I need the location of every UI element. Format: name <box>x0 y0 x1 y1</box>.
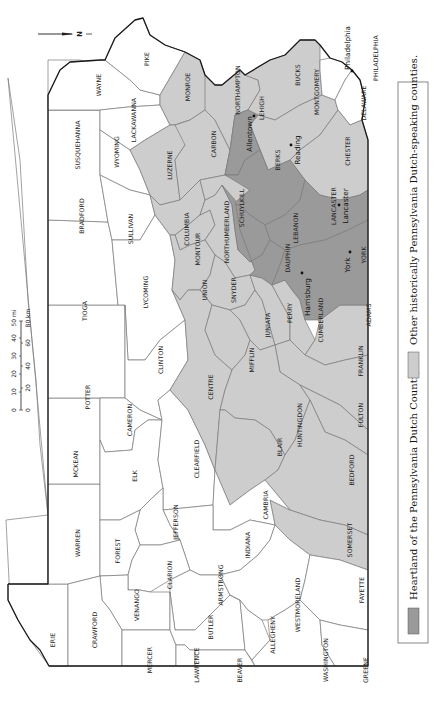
label-clearfield: CLEARFIELD <box>193 440 200 479</box>
city-dot-harrisburg <box>301 272 304 275</box>
county-beaver <box>195 650 255 666</box>
city-reading: Reading <box>293 135 302 164</box>
label-lawrence: LAWRENCE <box>193 647 200 682</box>
label-monroe: MONROE <box>184 73 191 102</box>
scale-mi-10: 10 <box>10 388 17 396</box>
scale-km-40: 40 <box>24 362 31 370</box>
label-columbia: COLUMBIA <box>183 212 190 246</box>
label-jefferson: JEFFERSON <box>172 504 180 541</box>
legend: Heartland of the Pennsylvania Dutch Coun… <box>398 55 428 643</box>
label-montour: MONTOUR <box>194 232 201 266</box>
label-warren: WARREN <box>74 529 81 557</box>
label-mercer: MERCER <box>146 646 153 673</box>
scale-km-20: 20 <box>24 384 31 392</box>
scale-mi-20: 20 <box>10 370 17 378</box>
label-dauphin: DAUPHIN <box>284 243 291 272</box>
label-lehigh: LEHIGH <box>258 96 265 120</box>
city-york: York <box>343 257 352 274</box>
label-butler: BUTLER <box>207 614 214 639</box>
label-potter: POTTER <box>84 384 91 409</box>
label-wayne: WAYNE <box>95 74 102 96</box>
label-susquehanna: SUSQUEHANNA <box>74 120 81 170</box>
label-fulton: FULTON <box>357 402 364 427</box>
legend-label-heartland: Heartland of the Pennsylvania Dutch Coun… <box>408 368 419 600</box>
label-venango: VENANGO <box>133 589 140 621</box>
label-westmoreland: WESTMORELAND <box>294 578 301 633</box>
label-union: UNION <box>201 279 208 300</box>
label-cumberland: CUMBERLAND <box>317 297 324 342</box>
scale-mi-label: 50 mi <box>10 309 17 326</box>
city-harrisburg: Harrisburg <box>303 278 312 316</box>
label-schuylkill: SCHUYLKILL <box>238 188 245 227</box>
label-carbon: CARBON <box>210 130 217 157</box>
city-dot-lancaster <box>338 204 341 207</box>
label-lancaster: LANCASTER <box>330 186 337 224</box>
label-lebanon: LEBANON <box>292 212 299 243</box>
label-adams: ADAMS <box>365 304 372 327</box>
pennsylvania-dutch-map: N <box>0 0 442 701</box>
label-mckean: MCKEAN <box>72 450 79 477</box>
label-clarion: CLARION <box>166 560 173 589</box>
city-philadelphia: Philadelphia <box>343 26 352 70</box>
scale-km-label: 80 km <box>24 308 31 327</box>
label-indiana: INDIANA <box>244 531 251 559</box>
scale-mi-0: 0 <box>10 408 17 412</box>
scale-bar: 0 10 20 30 40 50 mi 0 20 40 60 80 km <box>10 308 31 411</box>
label-centre: CENTRE <box>207 374 214 399</box>
label-sullivan: SULLIVAN <box>127 213 134 244</box>
scale-mi-30: 30 <box>10 352 17 360</box>
label-pike: PIKE <box>143 52 150 66</box>
legend-label-other: Other historically Pennsylvania Dutch-sp… <box>408 55 419 345</box>
label-york: YORK <box>360 246 367 265</box>
label-juniata: JUNIATA <box>264 312 272 338</box>
county-erie-main <box>8 584 68 666</box>
label-montgomery: MONTGOMERY <box>313 69 320 115</box>
label-snyder: SNYDER <box>230 276 237 303</box>
label-berks: BERKS <box>274 150 281 171</box>
label-greene: GREENE <box>362 657 369 683</box>
scale-mi-40: 40 <box>10 334 17 342</box>
label-cameron: CAMERON <box>126 404 133 437</box>
label-huntingdon: HUNTINGDON <box>296 403 303 447</box>
label-bradford: BRADFORD <box>78 198 85 234</box>
legend-swatch-heartland <box>408 608 419 634</box>
scale-km-60: 60 <box>24 339 31 347</box>
label-crawford: CRAWFORD <box>91 612 98 649</box>
label-tioga: TIOGA <box>81 300 88 322</box>
city-lancaster: Lancaster <box>341 188 350 223</box>
label-bucks: BUCKS <box>294 64 301 86</box>
label-somerset: SOMERSET <box>346 523 353 558</box>
label-armstrong: ARMSTRONG <box>217 564 224 605</box>
label-chester: CHESTER <box>344 136 351 166</box>
label-erie: ERIE <box>49 633 56 647</box>
label-fayette: FAYETTE <box>358 577 365 604</box>
label-wyoming: WYOMING <box>113 136 120 168</box>
label-beaver: BEAVER <box>236 657 243 683</box>
north-arrow-icon: N <box>38 31 92 37</box>
label-franklin: FRANKLIN <box>357 345 364 376</box>
label-cambria: CAMBRIA <box>262 490 269 520</box>
label-bedford: BEDFORD <box>348 454 355 485</box>
city-dot-york <box>349 251 352 254</box>
label-philadelphia: PHILADELPHIA <box>372 34 379 80</box>
north-label: N <box>76 31 84 37</box>
label-perry: PERRY <box>286 303 293 323</box>
label-northampton: NORTHAMPTON <box>234 65 241 115</box>
label-blair: BLAIR <box>276 437 283 456</box>
city-allentown: Allentown <box>245 116 254 152</box>
city-dot-reading <box>290 144 293 147</box>
label-clinton: CLINTON <box>157 346 164 374</box>
label-washington: WASHINGTON <box>322 638 329 682</box>
label-mifflin: MIFFLIN <box>248 347 255 372</box>
label-lackawanna: LACKAWANNA <box>130 97 137 142</box>
label-luzerne: LUZERNE <box>166 150 173 179</box>
label-northumberland: NORTHUMBERLAND <box>223 201 230 264</box>
label-allegheny: ALLEGHENY <box>269 616 276 654</box>
label-lycoming: LYCOMING <box>142 276 149 309</box>
legend-swatch-other <box>408 352 419 378</box>
label-delaware: DELAWARE <box>360 85 367 120</box>
label-forest: FOREST <box>114 538 121 563</box>
scale-km-0: 0 <box>24 408 31 412</box>
label-elk: ELK <box>131 469 138 482</box>
